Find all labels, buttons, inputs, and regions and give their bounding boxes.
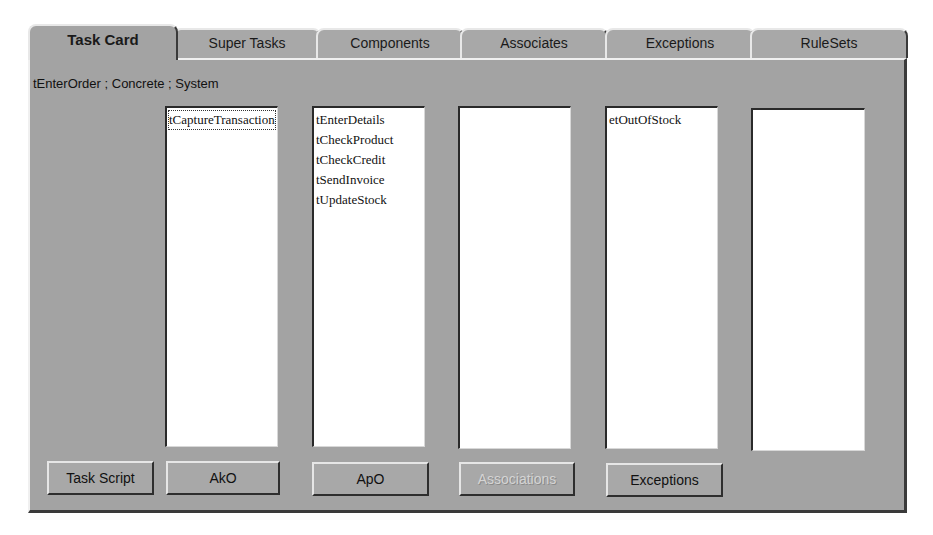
tab-rulesets[interactable]: RuleSets (750, 28, 908, 58)
task-script-button[interactable]: Task Script (47, 461, 154, 495)
tab-strip: Task Card Super Tasks Components Associa… (28, 24, 908, 60)
list-item[interactable]: tSendInvoice (315, 170, 423, 190)
tab-associates[interactable]: Associates (460, 28, 608, 58)
exceptions-button[interactable]: Exceptions (606, 463, 723, 497)
associations-listbox[interactable] (458, 106, 571, 449)
ako-button[interactable]: AkO (166, 461, 280, 495)
rulesets-listbox[interactable] (751, 108, 865, 451)
exceptions-listbox[interactable]: etOutOfStock (605, 106, 718, 449)
tab-components[interactable]: Components (316, 28, 464, 58)
tab-task-card[interactable]: Task Card (28, 24, 178, 60)
apo-button[interactable]: ApO (312, 462, 429, 496)
task-path-label: tEnterOrder ; Concrete ; System (33, 76, 219, 91)
list-item[interactable]: tCheckProduct (315, 130, 423, 150)
list-item[interactable]: etOutOfStock (608, 110, 716, 130)
list-item[interactable]: tEnterDetails (315, 110, 423, 130)
ako-listbox[interactable]: tCaptureTransaction (165, 106, 278, 447)
list-item[interactable]: tCaptureTransaction (168, 110, 276, 130)
task-card-panel: tEnterOrder ; Concrete ; System tCapture… (28, 58, 907, 513)
associations-button: Associations (459, 462, 575, 496)
list-item[interactable]: tUpdateStock (315, 190, 423, 210)
tab-super-tasks[interactable]: Super Tasks (173, 28, 321, 58)
tab-exceptions[interactable]: Exceptions (605, 28, 755, 58)
list-item[interactable]: tCheckCredit (315, 150, 423, 170)
apo-listbox[interactable]: tEnterDetails tCheckProduct tCheckCredit… (312, 106, 425, 447)
